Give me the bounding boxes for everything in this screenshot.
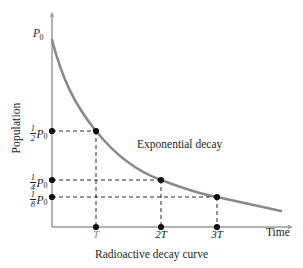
fraction-numerator: 1 — [30, 173, 36, 182]
y-tick-dot-eighth — [49, 194, 55, 200]
y-tick-symbol: P — [36, 128, 43, 140]
data-point-3t — [214, 194, 220, 200]
x-tick-label-2t: 2T — [155, 228, 167, 240]
y-tick-symbol: P — [36, 177, 43, 189]
exponential-decay-curve — [52, 40, 281, 211]
y-tick-symbol: P — [36, 194, 43, 206]
y-tick-dot-quarter — [49, 177, 55, 183]
y-tick-subscript: 0 — [44, 132, 48, 141]
y-tick-label-eighth: 1 8 P0 — [30, 190, 48, 209]
fraction-one-eighth: 1 8 — [30, 190, 36, 209]
x-tick-label-3t: 3T — [211, 228, 223, 240]
y-tick-label-half: 1 2 P0 — [30, 124, 48, 143]
fraction-numerator: 1 — [30, 190, 36, 199]
fraction-one-half: 1 2 — [30, 124, 36, 143]
x-axis-title: Time — [266, 226, 290, 238]
data-point-t — [93, 128, 99, 134]
y-tick-subscript: 0 — [44, 198, 48, 207]
initial-population-subscript: 0 — [40, 33, 44, 42]
fraction-denominator: 2 — [30, 133, 36, 143]
y-tick-subscript: 0 — [44, 181, 48, 190]
curve-annotation: Exponential decay — [137, 138, 222, 150]
y-axis-title: Population — [10, 86, 22, 170]
data-point-2t — [158, 177, 164, 183]
y-tick-dot-half — [49, 128, 55, 134]
figure-caption: Radioactive decay curve — [0, 248, 303, 260]
x-tick-label-t: T — [93, 228, 99, 240]
fraction-numerator: 1 — [30, 124, 36, 133]
fraction-denominator: 8 — [30, 199, 36, 209]
radioactive-decay-figure: P0 1 2 P0 1 4 P0 1 8 P0 T 2T 3T Populati… — [0, 0, 303, 268]
initial-population-label: P0 — [33, 27, 44, 39]
initial-population-symbol: P — [33, 27, 40, 39]
